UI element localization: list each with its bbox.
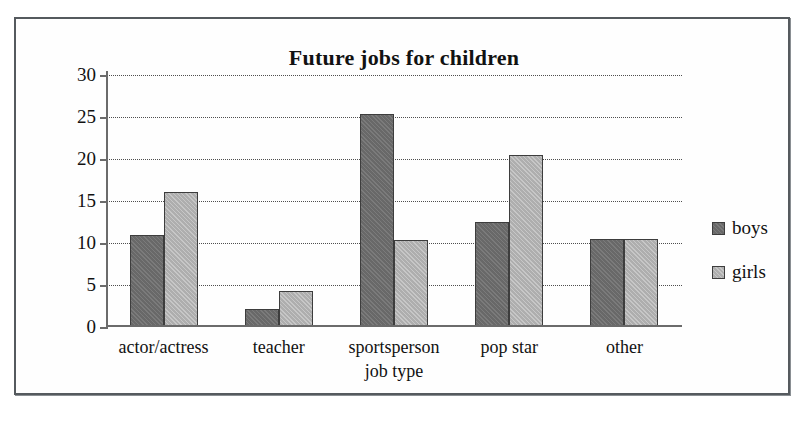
- legend-swatch-icon: [712, 222, 725, 235]
- y-axis-line: [106, 71, 108, 329]
- chart-frame: Future jobs for children 051015202530 ac…: [14, 17, 790, 395]
- x-axis-line: [106, 325, 682, 327]
- bar-boys-3: [475, 222, 509, 327]
- x-axis-title: job type: [106, 361, 682, 382]
- x-tick-label: teacher: [253, 337, 305, 358]
- y-tick-label: 10: [77, 232, 96, 254]
- plot-area: 051015202530 actor/actressteachersportsp…: [106, 75, 682, 327]
- legend-item-boys: boys: [712, 217, 768, 239]
- x-tick-label: pop star: [480, 337, 538, 358]
- y-tick-label: 30: [77, 64, 96, 86]
- bar-girls-1: [279, 291, 313, 327]
- bar-series-container: [106, 75, 682, 327]
- bar-girls-0: [164, 192, 198, 327]
- plot-inner: 051015202530 actor/actressteachersportsp…: [106, 75, 682, 327]
- bar-boys-2: [360, 114, 394, 327]
- bar-girls-4: [624, 239, 658, 327]
- y-tick-label: 25: [77, 106, 96, 128]
- y-tick-label: 15: [77, 190, 96, 212]
- chart-screenshot: Future jobs for children 051015202530 ac…: [0, 0, 806, 426]
- bar-boys-4: [590, 239, 624, 327]
- y-tick-label: 20: [77, 148, 96, 170]
- chart-title: Future jobs for children: [16, 45, 792, 71]
- chart-legend: boysgirls: [712, 217, 768, 305]
- bar-girls-2: [394, 240, 428, 327]
- x-tick-label: actor/actress: [119, 337, 209, 358]
- x-tick-label: sportsperson: [349, 337, 440, 358]
- bar-boys-0: [130, 235, 164, 327]
- y-tick-label: 0: [87, 316, 97, 338]
- legend-label: boys: [732, 217, 768, 239]
- legend-swatch-icon: [712, 266, 725, 279]
- legend-item-girls: girls: [712, 261, 768, 283]
- x-tick-label: other: [606, 337, 643, 358]
- y-tick-label: 5: [87, 274, 97, 296]
- legend-label: girls: [732, 261, 766, 283]
- bar-girls-3: [509, 155, 543, 327]
